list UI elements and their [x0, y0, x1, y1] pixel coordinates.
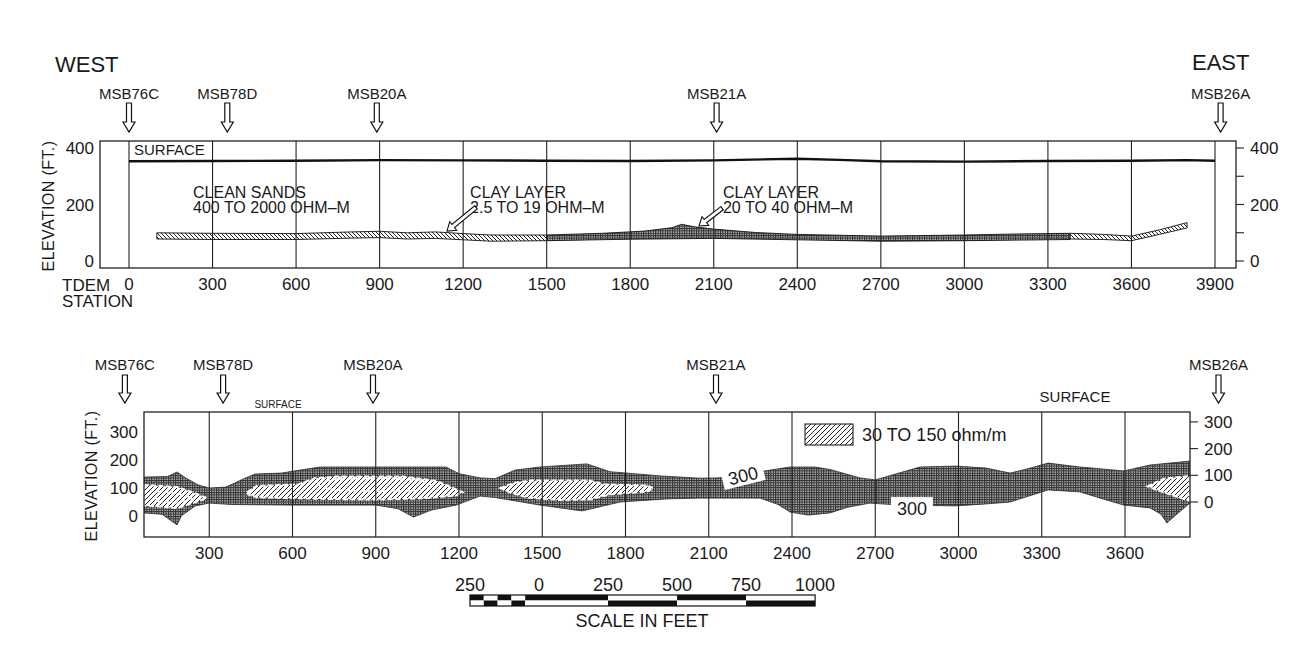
down-arrow-icon: [119, 375, 131, 403]
tdem-cross-section-panel: ELEVATION (FT.) TDEM STATION SURFACE0300…: [40, 85, 1278, 311]
x-tick-label: 2100: [690, 544, 728, 563]
down-arrow-icon: [710, 375, 722, 403]
x-tick-label: 3000: [945, 275, 983, 294]
y-right-tick-label: 0: [1250, 252, 1259, 271]
x-tick-label: 1200: [440, 544, 478, 563]
scale-segment: [484, 601, 498, 607]
contour-label: 300: [891, 497, 933, 519]
x-tick-label: 3600: [1106, 544, 1144, 563]
y-left-tick-label: 300: [110, 423, 138, 442]
legend: 30 TO 150 ohm/m: [805, 424, 1006, 445]
down-arrow-icon: [371, 103, 383, 132]
well-label-msb21a: MSB21A: [687, 85, 746, 102]
x-tick-label: 600: [282, 275, 310, 294]
x-tick-label: 900: [362, 544, 390, 563]
well-label-msb76c: MSB76C: [99, 85, 159, 102]
pointer-arrow-icon: [447, 206, 477, 231]
ground-surface-line: [129, 159, 1215, 162]
x-tick-label: 900: [365, 275, 393, 294]
x-tick-label: 1200: [444, 275, 482, 294]
scale-tick-label: 500: [662, 575, 692, 595]
scale-segment: [539, 595, 608, 601]
x-tick-label: 1500: [523, 544, 561, 563]
scale-segment: [677, 595, 746, 601]
y-left-tick-label: 0: [85, 252, 94, 271]
layer-fills: [144, 461, 1190, 525]
west-direction-label: WEST: [55, 52, 119, 77]
well-label-msb76c: MSB76C: [95, 356, 155, 373]
x-tick-label: 3000: [940, 544, 978, 563]
y-right-tick-label: 300: [1204, 413, 1232, 432]
pointer-arrow-icon: [699, 207, 723, 226]
x-tick-label: 3300: [1029, 275, 1067, 294]
scale-segment: [511, 595, 525, 601]
clay-layer-2.5-19-ohm-m-east: [1070, 223, 1187, 241]
resistivity-cross-section-figure: WEST EAST ELEVATION (FT.) TDEM STATION S…: [0, 0, 1306, 646]
y-right-tick-label: 200: [1250, 196, 1278, 215]
clay-layer-2.5-19-ohm-m-west: [157, 231, 547, 241]
x-tick-label: 2400: [778, 275, 816, 294]
scale-segment: [484, 595, 498, 601]
scale-segment: [498, 595, 512, 601]
legend-label: 30 TO 150 ohm/m: [862, 425, 1006, 445]
scale-segment: [498, 601, 512, 607]
y-right-tick-label: 200: [1204, 440, 1232, 459]
down-arrow-icon: [123, 103, 135, 132]
top-x-axis-title-line2: STATION: [62, 292, 133, 311]
scale-segment: [470, 601, 484, 607]
x-tick-label: 600: [278, 544, 306, 563]
scale-segment: [525, 601, 539, 607]
y-left-tick-label: 200: [66, 196, 94, 215]
bottom-y-axis-title: ELEVATION (FT.): [83, 411, 100, 542]
clay-layer-low-resistivity-label-line-2: 2.5 TO 19 OHM–M: [470, 199, 605, 216]
x-tick-label: 3900: [1196, 275, 1234, 294]
scale-bar-title: SCALE IN FEET: [575, 611, 708, 631]
clay-layer-20-40-ohm-m: [547, 224, 1070, 241]
contour-label-text: 300: [897, 499, 927, 519]
x-tick-label: 1500: [528, 275, 566, 294]
scale-segment: [525, 595, 539, 601]
scale-segment: [608, 601, 677, 607]
scale-segment: [677, 601, 746, 607]
scale-segment: [746, 601, 815, 607]
legend-hatch-swatch: [805, 424, 853, 445]
x-tick-label: 300: [195, 544, 223, 563]
x-tick-label: 1800: [607, 544, 645, 563]
x-tick-label: 1800: [611, 275, 649, 294]
well-label-msb26a: MSB26A: [1191, 85, 1250, 102]
scale-bar: 25002505007501000 SCALE IN FEET: [455, 575, 835, 631]
down-arrow-icon: [217, 375, 229, 403]
clay-layer-high-resistivity-label-line-2: 20 TO 40 OHM–M: [723, 199, 853, 216]
well-label-msb78d: MSB78D: [197, 85, 257, 102]
well-label-msb20a: MSB20A: [343, 356, 402, 373]
scale-tick-label: 1000: [795, 575, 835, 595]
y-left-tick-label: 200: [110, 451, 138, 470]
east-direction-label: EAST: [1192, 50, 1249, 75]
down-arrow-icon: [221, 103, 233, 132]
x-tick-label: 2100: [695, 275, 733, 294]
scale-tick-label: 0: [534, 575, 544, 595]
x-tick-label: 3600: [1113, 275, 1151, 294]
scale-segment: [608, 595, 677, 601]
resistivity-contour-panel: ELEVATION (FT.) SURFACESURFACE3006009001…: [83, 356, 1248, 563]
well-label-msb20a: MSB20A: [347, 85, 406, 102]
y-left-tick-label: 0: [129, 507, 138, 526]
well-label-msb26a: MSB26A: [1189, 356, 1248, 373]
x-tick-label: 300: [198, 275, 226, 294]
scale-tick-label: 250: [455, 575, 485, 595]
y-right-tick-label: 400: [1250, 139, 1278, 158]
figure-canvas: WEST EAST ELEVATION (FT.) TDEM STATION S…: [0, 0, 1306, 646]
surface-label: SURFACE: [1040, 388, 1111, 405]
scale-segment: [470, 595, 484, 601]
y-left-tick-label: 400: [66, 139, 94, 158]
bottom-panel-plot: SURFACESURFACE30060090012001500180021002…: [95, 356, 1248, 563]
scale-tick-label: 750: [731, 575, 761, 595]
down-arrow-icon: [1213, 375, 1225, 403]
top-y-axis-title: ELEVATION (FT.): [40, 141, 57, 272]
x-tick-label: 2400: [773, 544, 811, 563]
down-arrow-icon: [711, 103, 723, 132]
y-right-tick-label: 0: [1204, 493, 1213, 512]
well-label-msb21a: MSB21A: [686, 356, 745, 373]
down-arrow-icon: [367, 375, 379, 403]
y-right-tick-label: 100: [1204, 466, 1232, 485]
